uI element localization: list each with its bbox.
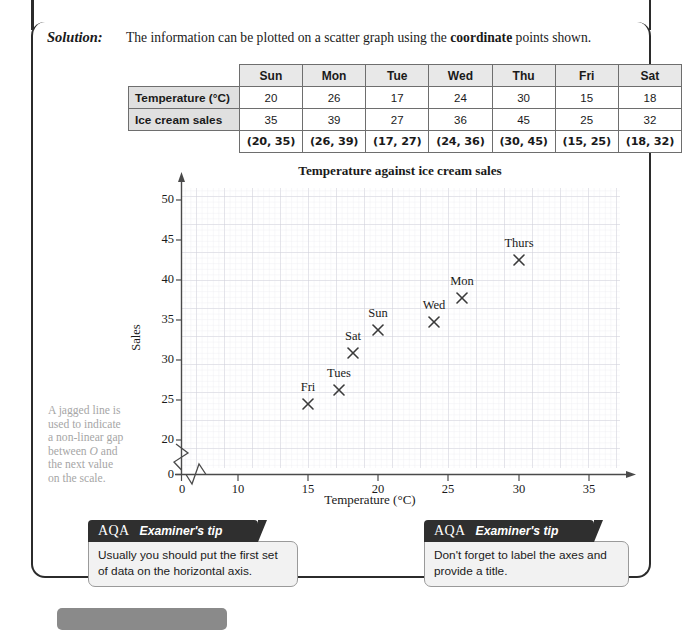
y-tick-label: 30 xyxy=(146,352,174,367)
examiners-tip-header: AQA Examiner's tip xyxy=(424,520,594,542)
y-axis-arrow xyxy=(178,172,185,182)
point-label-mon: Mon xyxy=(432,274,492,289)
examiners-tip-left: AQA Examiner's tip Usually you should pu… xyxy=(88,520,298,587)
side-note-line-5: the next value xyxy=(48,458,113,471)
examiners-tip-body: Don't forget to label the axes and provi… xyxy=(424,541,629,587)
y-tick-label: 50 xyxy=(146,192,174,207)
x-tick-label: 25 xyxy=(434,482,462,497)
examiners-tip-right: AQA Examiner's tip Don't forget to label… xyxy=(424,520,629,587)
point-label-thurs: Thurs xyxy=(489,236,549,251)
point-label-wed: Wed xyxy=(404,298,464,313)
point-label-sun: Sun xyxy=(348,306,408,321)
side-note-line-3: a non-linear gap xyxy=(48,431,123,444)
y-tick-label: 25 xyxy=(146,392,174,407)
side-note-line-1: A jagged line is xyxy=(48,404,120,417)
x-axis-arrow xyxy=(626,471,636,478)
x-tick-label: 30 xyxy=(505,482,533,497)
x-axis-ticks xyxy=(182,475,590,481)
aqa-logo: AQA xyxy=(98,523,130,539)
side-note-line-4a: between xyxy=(48,445,90,458)
examiners-tip-header: AQA Examiner's tip xyxy=(88,520,258,542)
y-tick-label: 0 xyxy=(146,467,174,482)
y-tick-label: 35 xyxy=(146,312,174,327)
side-note-jagged-line: A jagged line is used to indicate a non-… xyxy=(48,404,134,486)
aqa-logo: AQA xyxy=(434,523,466,539)
x-tick-label: 0 xyxy=(168,482,196,497)
point-label-sat: Sat xyxy=(323,329,383,344)
point-label-tues: Tues xyxy=(309,366,369,381)
y-tick-label: 20 xyxy=(146,432,174,447)
side-note-line-2: used to indicate xyxy=(48,418,121,431)
x-tick-label: 10 xyxy=(224,482,252,497)
examiners-tip-body: Usually you should put the first set of … xyxy=(88,541,298,587)
examiners-tip-title: Examiner's tip xyxy=(140,524,223,538)
side-note-line-6: on the scale. xyxy=(48,472,106,485)
y-tick-label: 45 xyxy=(146,232,174,247)
examiners-tip-title: Examiner's tip xyxy=(476,524,559,538)
side-note-origin-symbol: O xyxy=(90,445,98,458)
x-tick-label: 35 xyxy=(575,482,603,497)
plot-gridlines xyxy=(182,188,620,468)
y-tick-label: 40 xyxy=(146,272,174,287)
x-tick-label: 15 xyxy=(294,482,322,497)
x-tick-label: 20 xyxy=(364,482,392,497)
bottom-section-tab xyxy=(57,608,227,630)
point-label-fri: Fri xyxy=(278,380,338,395)
side-note-line-4b: and xyxy=(98,445,118,458)
